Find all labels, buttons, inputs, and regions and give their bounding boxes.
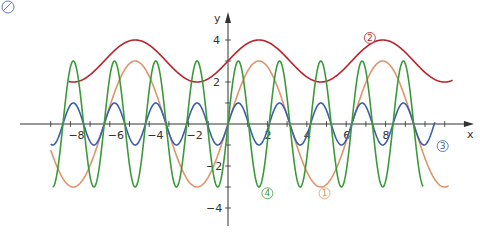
curve-label: 4 (265, 188, 271, 198)
x-tick-label: −4 (147, 129, 163, 142)
x-axis-label: x (467, 128, 474, 141)
x-axis-arrow-icon (464, 121, 474, 127)
curve-label: 1 (322, 188, 328, 198)
curves (51, 40, 453, 187)
x-tick-label: −2 (187, 129, 203, 142)
curve-label: 2 (367, 33, 373, 43)
x-tick-label: −6 (108, 129, 124, 142)
y-axis-arrow-icon (225, 12, 231, 23)
y-axis-label: y (214, 12, 221, 25)
function-plot: xy−8−6−4−2246842−2−4 1234 (0, 0, 480, 236)
curve-label: 3 (440, 141, 446, 151)
y-tick-label: −4 (206, 202, 222, 215)
y-tick-label: 2 (213, 76, 220, 89)
y-tick-label: 4 (213, 34, 220, 47)
x-tick-label: −8 (68, 129, 84, 142)
pencil-icon (2, 1, 14, 13)
